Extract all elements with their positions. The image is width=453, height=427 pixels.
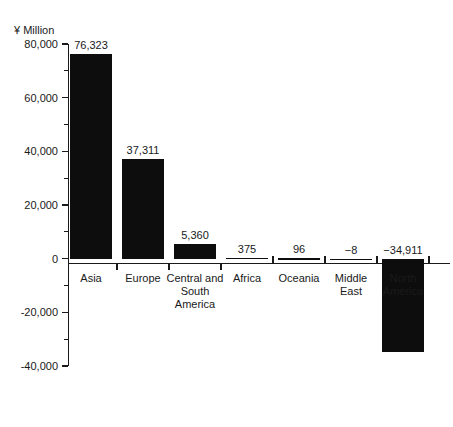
y-tick-major [62, 365, 68, 366]
x-tick [168, 263, 169, 270]
bar-value-label: 76,323 [74, 39, 108, 51]
y-tick-label: 40,000 [0, 146, 58, 157]
y-tick-label: -40,000 [0, 361, 58, 372]
bar-value-label: 96 [293, 243, 305, 255]
y-tick-major [62, 204, 68, 205]
bar [122, 159, 164, 259]
axis-unit-label: ¥ Million [14, 24, 54, 37]
bar-value-label: 375 [238, 243, 256, 255]
y-tick-minor [64, 339, 68, 340]
y-tick-minor [64, 70, 68, 71]
bar-value-label: −34,911 [383, 244, 422, 256]
x-tick [324, 256, 325, 263]
bar-value-label: −8 [345, 244, 358, 256]
y-tick-minor [64, 285, 68, 286]
y-tick-label: 20,000 [0, 200, 58, 211]
y-tick-label: 80,000 [0, 39, 58, 50]
bar-chart: ¥ Million 80,00060,00040,00020,0000-20,0… [0, 0, 453, 427]
y-tick-minor [64, 124, 68, 125]
bar-value-label: 37,311 [127, 144, 160, 156]
y-tick-major [62, 151, 68, 152]
bar [330, 259, 372, 260]
x-tick [428, 256, 429, 263]
y-tick-major [62, 258, 68, 259]
bar [174, 244, 216, 258]
y-tick-minor [64, 231, 68, 232]
x-tick [272, 256, 273, 263]
y-tick-major [62, 97, 68, 98]
bar [226, 258, 268, 259]
plot-area: 80,00060,00040,00020,0000-20,000-40,000 … [68, 44, 450, 366]
y-tick-label: -20,000 [0, 307, 58, 318]
y-tick-minor [64, 178, 68, 179]
y-tick-major [62, 43, 68, 44]
category-label: North America [366, 272, 440, 298]
x-tick [220, 263, 221, 270]
bar [70, 54, 112, 259]
x-tick [376, 256, 377, 263]
y-tick-label: 0 [0, 253, 58, 264]
bar [278, 258, 320, 259]
bar-value-label: 5,360 [181, 229, 209, 241]
x-tick [116, 263, 117, 270]
y-tick-major [62, 312, 68, 313]
y-tick-label: 60,000 [0, 92, 58, 103]
